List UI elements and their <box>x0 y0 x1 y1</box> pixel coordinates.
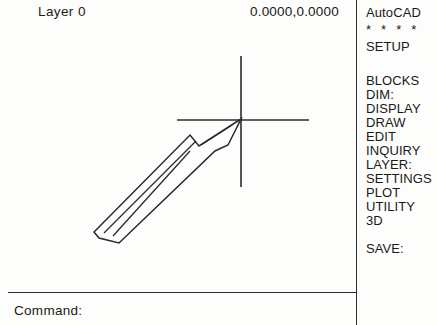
menu-item-utility[interactable]: UTILITY <box>366 200 415 214</box>
arrow-outline <box>94 119 241 243</box>
autocad-window: Layer 0 0.0000,0.0000 Command: AutoCAD *… <box>0 0 437 325</box>
drawing-canvas-svg <box>0 0 356 292</box>
arrow-inner-detail <box>104 125 232 236</box>
arrow-object[interactable] <box>94 119 241 243</box>
menu-header-autocad[interactable]: AutoCAD <box>366 6 421 20</box>
menu-item-layer[interactable]: LAYER: <box>366 158 412 172</box>
menu-divider <box>356 0 357 325</box>
menu-item-dim[interactable]: DIM: <box>366 88 394 102</box>
command-prompt-label[interactable]: Command: <box>14 303 82 318</box>
menu-item-blocks[interactable]: BLOCKS <box>366 74 419 88</box>
drawing-canvas[interactable] <box>0 0 356 292</box>
menu-item-draw[interactable]: DRAW <box>366 116 406 130</box>
screen-menu: AutoCAD * * * * SETUPBLOCKSDIM:DISPLAYDR… <box>366 0 437 292</box>
menu-item-edit[interactable]: EDIT <box>366 130 396 144</box>
menu-item-inquiry[interactable]: INQUIRY <box>366 144 421 158</box>
menu-item-save[interactable]: SAVE: <box>366 242 404 256</box>
crosshair-cursor <box>177 56 309 187</box>
menu-item-plot[interactable]: PLOT <box>366 186 400 200</box>
menu-stars-separator: * * * * <box>366 23 419 37</box>
menu-item-settings[interactable]: SETTINGS <box>366 172 432 186</box>
command-area-divider <box>8 292 357 293</box>
menu-item-display[interactable]: DISPLAY <box>366 102 421 116</box>
menu-item-3d[interactable]: 3D <box>366 214 383 228</box>
menu-item-setup[interactable]: SETUP <box>366 40 410 54</box>
